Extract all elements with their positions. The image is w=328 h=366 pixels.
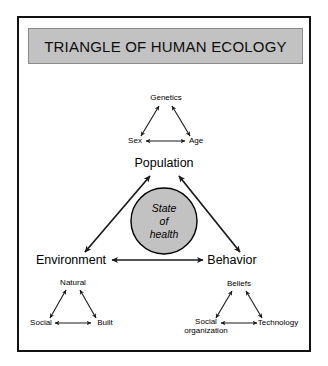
state-of-health-line1: State (150, 202, 179, 215)
node-genetics: Genetics (150, 94, 182, 103)
figure-root: TRIANGLE OF HUMAN ECOLOGY (0, 0, 328, 366)
node-behavior: Behavior (207, 253, 256, 267)
node-technology: Technology (258, 319, 298, 328)
node-beliefs: Beliefs (227, 280, 251, 289)
node-population: Population (134, 156, 193, 170)
node-natural: Natural (60, 279, 86, 288)
state-of-health-line3: health (150, 227, 179, 240)
node-social: Social (30, 319, 52, 328)
diagram-frame (17, 16, 311, 352)
node-environment: Environment (36, 253, 106, 267)
node-sex: Sex (128, 137, 142, 146)
node-age: Age (189, 137, 203, 146)
page-title: TRIANGLE OF HUMAN ECOLOGY (44, 38, 287, 55)
node-built: Built (97, 319, 113, 328)
state-of-health-label: State of health (150, 202, 179, 240)
state-of-health-line2: of (150, 215, 179, 228)
node-social-organization: Social organization (175, 318, 237, 336)
title-banner: TRIANGLE OF HUMAN ECOLOGY (28, 28, 303, 64)
